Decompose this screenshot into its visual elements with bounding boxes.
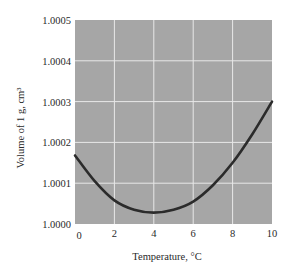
volume-vs-temperature-chart: 1.00001.00011.00021.00031.00041.0005 024… [0, 0, 292, 272]
x-tick-label: 10 [267, 228, 278, 239]
x-tick-label: 8 [230, 228, 235, 239]
y-tick-label: 1.0000 [42, 219, 71, 230]
x-tick-label: 2 [112, 228, 117, 239]
x-tick-label: 0 [76, 230, 81, 241]
y-axis-label: Volume of 1 g, cm³ [15, 88, 26, 169]
y-tick-label: 1.0004 [42, 56, 72, 67]
y-tick-label: 1.0002 [42, 137, 71, 148]
y-tick-label: 1.0003 [42, 97, 71, 108]
x-axis-label: Temperature, °C [132, 251, 201, 262]
x-tick-label: 6 [191, 228, 196, 239]
y-axis-ticks: 1.00001.00011.00021.00031.00041.0005 [42, 15, 72, 230]
y-tick-label: 1.0005 [42, 15, 71, 26]
x-tick-label: 4 [151, 228, 157, 239]
y-tick-label: 1.0001 [42, 178, 71, 189]
x-axis-ticks: 0246810 [76, 228, 277, 241]
